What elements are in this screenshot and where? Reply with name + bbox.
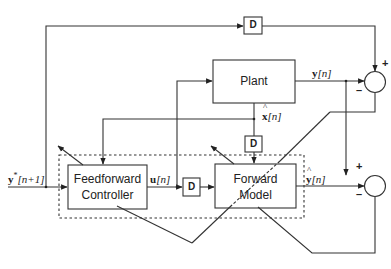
predicted-output-hat: ^ bbox=[307, 165, 311, 175]
forward-model-label-line2: Model bbox=[215, 187, 296, 203]
reference-index: [n+1] bbox=[18, 173, 45, 185]
state-estimate-hat: ^ bbox=[263, 102, 267, 112]
feedforward-controller-label-line2: Controller bbox=[68, 187, 147, 203]
forward-model-label: Forward Model bbox=[215, 171, 296, 203]
feedforward-controller-label-line1: Feedforward bbox=[68, 171, 147, 187]
predicted-output-index: [n] bbox=[312, 173, 326, 185]
plant-label: Plant bbox=[213, 73, 295, 89]
output-signal-label: y[n] bbox=[312, 67, 332, 79]
state-estimate-label: ^ x [n] bbox=[262, 110, 282, 122]
feedforward-controller-label: Feedforward Controller bbox=[68, 171, 147, 203]
reference-signal-label: y*[n+1] bbox=[8, 171, 44, 185]
predicted-output-label: ^ y [n] bbox=[306, 173, 326, 185]
bottom-sum-minus: – bbox=[356, 188, 362, 200]
diagram-lines bbox=[0, 0, 391, 269]
delay-state-label: D bbox=[245, 138, 262, 149]
bottom-sum-plus: + bbox=[356, 160, 362, 172]
top-sum-plus: + bbox=[382, 57, 388, 69]
top-summing-junction bbox=[365, 72, 386, 93]
diagram-canvas: Plant Feedforward Controller Forward Mod… bbox=[0, 0, 391, 269]
delay-top-label: D bbox=[244, 19, 262, 30]
delay-middle-label: D bbox=[183, 181, 200, 192]
bottom-summing-junction bbox=[365, 176, 386, 197]
top-sum-minus: – bbox=[356, 84, 362, 96]
forward-model-label-line1: Forward bbox=[215, 171, 296, 187]
control-signal-label: u[n] bbox=[150, 173, 170, 185]
control-index: [n] bbox=[156, 173, 170, 185]
output-index: [n] bbox=[318, 67, 332, 79]
state-estimate-index: [n] bbox=[268, 110, 282, 122]
